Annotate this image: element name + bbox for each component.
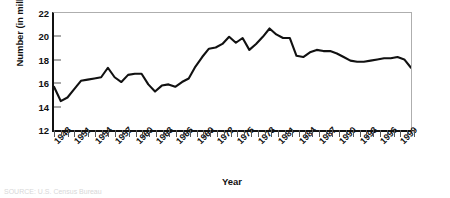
y-tick-label: 22 [38,8,49,19]
y-tick-label: 20 [38,31,49,42]
x-tick-mark [61,130,62,137]
x-tick-mark [129,130,130,137]
source-footnote: SOURCE: U.S. Census Bureau [4,188,102,195]
x-tick-mark [203,130,204,137]
x-tick-mark [265,130,266,137]
x-tick-mark [366,130,367,137]
y-tick-label: 14 [38,101,49,112]
x-tick-mark [81,130,82,137]
x-tick-mark [346,130,347,137]
x-tick-mark [326,130,327,137]
x-tick-mark [387,130,388,137]
y-tick-mark [54,59,61,60]
x-tick-mark [312,130,313,137]
x-tick-mark [394,130,395,137]
x-tick-mark [149,130,150,137]
x-tick-mark [244,130,245,137]
series-line-wrapper [54,13,411,130]
x-tick-mark [271,130,272,137]
line-series-svg [54,13,411,132]
y-axis-title: Number (in millions) [14,0,25,87]
x-tick-mark [142,130,143,137]
x-tick-mark [285,130,286,137]
chart-figure: Number (in millions) 121416182022 194819… [0,0,450,198]
x-tick-mark [183,130,184,137]
x-tick-mark [88,130,89,137]
y-tick-label: 18 [38,54,49,65]
y-tick-label: 16 [38,78,49,89]
x-tick-mark [68,130,69,137]
x-tick-mark [108,130,109,137]
x-tick-mark [224,130,225,137]
y-tick-mark [54,106,61,107]
x-tick-mark [251,130,252,137]
y-tick-label: 12 [38,125,49,136]
x-tick-mark [332,130,333,137]
x-tick-mark [373,130,374,137]
x-tick-mark [102,130,103,137]
x-tick-mark [305,130,306,137]
x-tick-mark [292,130,293,137]
x-tick-mark [231,130,232,137]
y-tick-mark [54,83,61,84]
x-tick-mark [190,130,191,137]
x-axis-title: Year [52,176,412,187]
x-tick-mark [169,130,170,137]
x-tick-mark [414,130,415,137]
plot-area: 121416182022 194819511954195719601963196… [52,12,412,132]
y-tick-mark [54,36,61,37]
data-polyline [54,28,411,101]
x-tick-mark [122,130,123,137]
x-tick-mark [210,130,211,137]
x-tick-mark [163,130,164,137]
x-tick-mark [407,130,408,137]
x-tick-mark [353,130,354,137]
